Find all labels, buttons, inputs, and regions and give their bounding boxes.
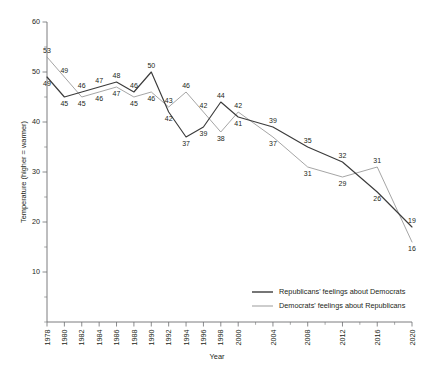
chart-legend: Republicans' feelings about Democrats De… — [252, 287, 406, 310]
x-tick-label: 2012 — [338, 330, 347, 346]
data-point-label: 46 — [182, 82, 190, 89]
data-point-label: 26 — [373, 195, 381, 202]
x-tick-group: 1978198019821984198619881990199219941996… — [43, 322, 417, 346]
x-tick-label: 1994 — [182, 330, 191, 346]
y-tick-label: 60 — [32, 17, 40, 26]
x-tick-label: 1978 — [43, 330, 52, 346]
data-point-label: 42 — [165, 115, 173, 122]
y-tick-label: 50 — [32, 67, 40, 76]
data-point-label: 38 — [217, 135, 225, 142]
x-tick-label: 1980 — [60, 330, 69, 346]
data-point-label: 47 — [95, 77, 103, 84]
data-point-label: 47 — [113, 90, 121, 97]
data-point-label: 43 — [165, 97, 173, 104]
x-tick-label: 1982 — [77, 330, 86, 346]
data-point-label: 46 — [95, 95, 103, 102]
data-point-label: 35 — [304, 137, 312, 144]
data-point-label: 50 — [147, 62, 155, 69]
legend-label-democrats: Democrats' feelings about Republicans — [279, 301, 406, 310]
data-point-label: 48 — [113, 72, 121, 79]
x-tick-label: 1998 — [216, 330, 225, 346]
data-point-label: 49 — [43, 80, 51, 87]
data-point-label: 45 — [60, 100, 68, 107]
x-tick-label: 1996 — [199, 330, 208, 346]
data-point-label: 44 — [217, 92, 225, 99]
data-point-label: 37 — [182, 140, 190, 147]
data-point-label: 37 — [269, 140, 277, 147]
y-tick-label: 20 — [32, 217, 40, 226]
data-point-label: 39 — [200, 130, 208, 137]
y-tick-label: 40 — [32, 117, 40, 126]
legend-label-republicans: Republicans' feelings about Democrats — [279, 287, 406, 296]
chart-container: 102030405060 197819801982198419861988199… — [0, 0, 429, 384]
x-tick-label: 1992 — [164, 330, 173, 346]
y-tick-label: 30 — [32, 167, 40, 176]
x-tick-label: 2004 — [269, 330, 278, 346]
data-point-label: 31 — [304, 170, 312, 177]
legend-item-democrats: Democrats' feelings about Republicans — [252, 301, 406, 310]
line-chart: 102030405060 197819801982198419861988199… — [0, 0, 429, 384]
legend-item-republicans: Republicans' feelings about Democrats — [252, 287, 406, 296]
x-axis-title: Year — [210, 352, 225, 361]
data-point-label: 16 — [408, 245, 416, 252]
x-tick-label: 2016 — [373, 330, 382, 346]
data-point-label: 49 — [60, 67, 68, 74]
y-axis-title: Temperature (higher = warmer) — [19, 121, 28, 223]
x-tick-label: 1990 — [147, 330, 156, 346]
data-point-label: 29 — [339, 180, 347, 187]
data-point-label: 41 — [234, 120, 242, 127]
data-point-label: 45 — [78, 100, 86, 107]
x-tick-label: 1988 — [130, 330, 139, 346]
x-tick-label: 1986 — [112, 330, 121, 346]
series-group — [47, 57, 412, 242]
data-point-label: 42 — [234, 102, 242, 109]
x-tick-label: 2000 — [234, 330, 243, 346]
data-point-label: 46 — [147, 95, 155, 102]
data-point-label: 19 — [408, 217, 416, 224]
series-line-democrats — [47, 57, 412, 242]
data-point-label: 45 — [130, 100, 138, 107]
data-point-label: 53 — [43, 47, 51, 54]
x-tick-label: 2008 — [303, 330, 312, 346]
data-labels-republicans: 4945464748465042373944413935322619 — [43, 62, 416, 224]
data-point-label: 32 — [339, 152, 347, 159]
y-tick-group: 102030405060 — [32, 17, 47, 322]
x-tick-label: 2020 — [408, 330, 417, 346]
x-tick-label: 1984 — [95, 330, 104, 346]
data-point-label: 46 — [130, 82, 138, 89]
data-point-label: 42 — [200, 102, 208, 109]
data-point-label: 39 — [269, 117, 277, 124]
data-point-label: 31 — [373, 157, 381, 164]
data-point-label: 46 — [78, 82, 86, 89]
y-tick-label: 10 — [32, 267, 40, 276]
